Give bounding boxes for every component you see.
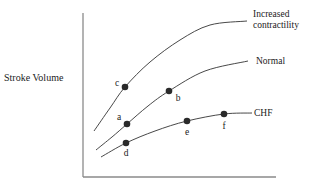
curve-normal bbox=[96, 61, 248, 150]
point-label-e: e bbox=[185, 127, 189, 137]
point-label-b: b bbox=[176, 93, 181, 103]
data-point-f bbox=[221, 111, 228, 118]
data-point-b bbox=[166, 88, 173, 95]
curve-label-normal: Normal bbox=[256, 56, 285, 66]
series-group: IncreasedcontractilitycNormalabCHFdef bbox=[94, 9, 299, 158]
curve-label-chf: CHF bbox=[254, 108, 272, 118]
point-label-d: d bbox=[124, 148, 129, 158]
y-axis-label: Stroke Volume bbox=[4, 72, 64, 83]
data-point-c bbox=[122, 84, 129, 91]
point-label-a: a bbox=[117, 112, 122, 122]
data-point-d bbox=[123, 140, 130, 147]
data-point-e bbox=[184, 118, 191, 125]
curve-label-increased-contractility: Increasedcontractility bbox=[253, 9, 299, 30]
point-label-c: c bbox=[115, 78, 119, 88]
series-normal: Normalab bbox=[96, 56, 285, 150]
point-label-f: f bbox=[222, 121, 226, 131]
frank-starling-chart: Stroke Volume IncreasedcontractilitycNor… bbox=[0, 0, 310, 190]
data-point-a bbox=[124, 121, 131, 128]
series-chf: CHFdef bbox=[101, 108, 272, 158]
